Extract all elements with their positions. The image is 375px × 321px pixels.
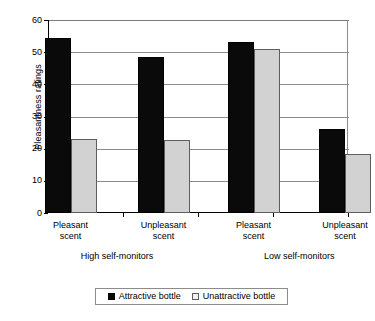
y-tick-label-10: 10 [2,176,42,185]
x-axis-label-0: Pleasantscent [28,220,114,242]
x-tick-mark-2 [198,213,199,217]
x-axis-label-line1-2: Pleasant [236,220,271,230]
x-tick-mark-3 [273,213,274,217]
group-label-1: Low self-monitors [224,251,374,261]
legend-label-attractive: Attractive bottle [119,292,181,301]
x-axis-label-line2-2: scent [211,231,297,242]
y-tick-label-30: 30 [2,112,42,121]
legend-item-unattractive: Unattractive bottle [192,292,276,301]
x-axis-label-2: Pleasantscent [211,220,297,242]
y-tick-mark-0 [44,213,48,214]
bar-attractive-0 [45,38,71,213]
legend-swatch-attractive-icon [108,293,115,300]
y-tick-label-60: 60 [2,16,42,25]
x-axis-label-line2-3: scent [302,231,375,242]
x-axis-label-3: Unpleasantscent [302,220,375,242]
group-label-0: High self-monitors [42,251,192,261]
x-axis-label-line1-0: Pleasant [53,220,88,230]
bar-attractive-3 [319,129,345,213]
x-axis-label-line1-3: Unpleasant [322,220,368,230]
x-axis-label-1: Unpleasantscent [121,220,207,242]
y-tick-label-20: 20 [2,144,42,153]
x-axis-label-line1-1: Unpleasant [141,220,187,230]
bar-unattractive-1 [164,140,190,213]
bars-layer [48,20,348,213]
chart-legend: Attractive bottle Unattractive bottle [95,288,288,305]
x-tick-mark-4 [348,213,349,217]
y-tick-label-40: 40 [2,80,42,89]
legend-item-attractive: Attractive bottle [108,292,181,301]
y-tick-label-50: 50 [2,48,42,57]
y-tick-label-0: 0 [2,209,42,218]
x-axis-label-line2-0: scent [28,231,114,242]
legend-label-unattractive: Unattractive bottle [203,292,276,301]
bar-unattractive-3 [345,154,371,213]
bar-attractive-2 [228,42,254,213]
bar-unattractive-2 [254,49,280,213]
x-axis-label-line2-1: scent [121,231,207,242]
x-tick-mark-1 [123,213,124,217]
legend-swatch-unattractive-icon [192,293,199,300]
bar-attractive-1 [138,57,164,213]
bar-unattractive-0 [71,139,97,213]
